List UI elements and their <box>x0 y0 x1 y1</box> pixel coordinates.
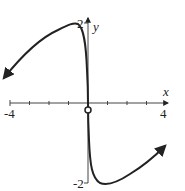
y-min-label: -2 <box>73 176 84 191</box>
y-max-label: 2 <box>77 16 84 31</box>
function-graph: x y -4 4 2 -2 <box>0 0 185 191</box>
x-min-label: -4 <box>4 106 15 121</box>
x-max-label: 4 <box>160 106 167 121</box>
x-axis-label: x <box>162 84 169 99</box>
function-curve <box>4 23 165 184</box>
origin-open-circle <box>85 107 91 113</box>
y-axis-label: y <box>91 19 99 34</box>
